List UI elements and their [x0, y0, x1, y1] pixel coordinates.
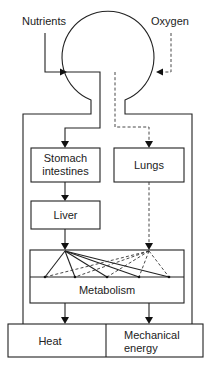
heat-arrow-icon	[61, 317, 69, 324]
metabolism-nutrient-arrow-icon	[61, 243, 69, 250]
oxygen-entry-arrow-icon	[156, 69, 163, 76]
liver-label: Liver	[54, 209, 78, 221]
heat-label: Heat	[38, 335, 61, 347]
energy-flow-diagram: Stomach intestines Lungs Liver Metabol	[0, 0, 213, 376]
stomach-label: Stomach	[44, 152, 87, 164]
oxygen-input-line	[158, 33, 171, 72]
lungs-arrow-icon	[145, 141, 153, 148]
mechanical-arrow-icon	[145, 317, 153, 324]
nutrient-input-line	[45, 33, 100, 143]
stomach-arrow-icon	[61, 141, 69, 148]
nutrients-label: Nutrients	[22, 15, 67, 27]
metabolism-label: Metabolism	[79, 284, 135, 296]
intestines-label: intestines	[42, 165, 89, 177]
energy-label: energy	[124, 342, 158, 354]
mechanical-label: Mechanical	[124, 329, 180, 341]
oxygen-to-lungs-line	[115, 72, 149, 142]
metabolism-oxygen-arrow-icon	[145, 243, 153, 250]
oxygen-label: Oxygen	[151, 15, 189, 27]
lungs-label: Lungs	[134, 159, 164, 171]
liver-arrow-icon	[61, 195, 69, 201]
